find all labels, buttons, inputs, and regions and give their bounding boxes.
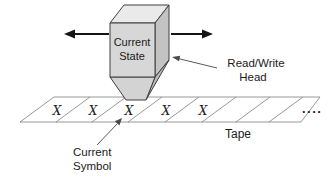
tape-cell-symbol: X — [52, 104, 62, 118]
current-symbol-pointer-line — [97, 124, 117, 145]
move-right-arrow-head — [202, 30, 213, 39]
tape-cell-symbol: X — [198, 104, 208, 118]
read-write-head-pointer-arrowhead — [172, 56, 180, 61]
current-symbol-label-line2: Symbol — [73, 160, 111, 172]
move-left-arrow — [64, 30, 109, 39]
read-write-head-callout: Read/Write Head — [172, 56, 285, 83]
tape-cell-symbol: X — [161, 104, 171, 118]
read-write-head-label-line2: Head — [239, 71, 267, 83]
tape-cell-symbol-current: X — [124, 104, 134, 118]
move-left-arrow-head — [64, 30, 75, 39]
current-state-label-line1: Current — [114, 36, 151, 48]
diagram-canvas: X X X X X .... Current State — [0, 0, 332, 183]
current-state-label-line2: State — [119, 50, 145, 62]
turing-machine-diagram: X X X X X .... Current State — [0, 0, 332, 183]
current-symbol-label-line1: Current — [73, 146, 112, 158]
move-right-arrow — [171, 30, 213, 39]
tape-cell-symbol: X — [88, 104, 98, 118]
read-write-head-label-line1: Read/Write — [227, 57, 284, 69]
read-write-head: Current State — [110, 5, 169, 100]
tape: X X X X X .... — [20, 97, 322, 122]
tape-label: Tape — [225, 127, 251, 141]
tape-continuation-dots: .... — [302, 101, 322, 116]
read-write-head-pointer-line — [178, 59, 217, 69]
current-symbol-callout: Current Symbol — [73, 118, 122, 172]
